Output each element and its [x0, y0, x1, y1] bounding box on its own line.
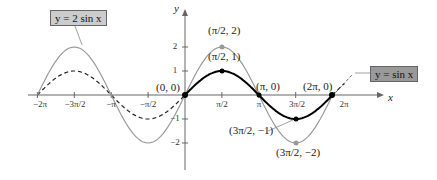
point-3pi-half-m1	[294, 117, 299, 122]
y-tick-label: 1	[170, 65, 180, 75]
label-origin: (0, 0)	[156, 81, 180, 93]
leader-2sin	[75, 26, 82, 45]
x-tick-label: −3π/2	[61, 99, 89, 109]
y-tick-label: 2	[170, 41, 180, 51]
x-axis-label: x	[388, 91, 393, 103]
y-tick-label: −2	[168, 137, 182, 147]
x-tick-label: π	[247, 99, 271, 109]
label-3pi-half-m2: (3π/2, −2)	[276, 146, 320, 158]
sine-chart: y x (0, 0) (π/2, 2) (π/2, 1) (π, 0) (2π,…	[0, 0, 437, 180]
x-tick-label: 2π	[334, 99, 354, 109]
y-axis-arrow-icon	[182, 9, 188, 16]
y-tick-label: −1	[168, 113, 182, 123]
x-axis-arrow-icon	[377, 92, 384, 98]
point-pi-half-2	[220, 45, 225, 50]
label-pi-0: (π, 0)	[256, 80, 280, 92]
y-axis-label: y	[174, 2, 179, 14]
point-3pi-half-m2	[294, 141, 299, 146]
x-tick-label: −2π	[28, 99, 52, 109]
label-pi-half-1: (π/2, 1)	[208, 50, 240, 62]
x-tick-label: −π/2	[134, 99, 162, 109]
label-2pi-0: (2π, 0)	[303, 80, 332, 92]
point-origin	[182, 92, 188, 98]
point-pi-0	[257, 93, 262, 98]
point-2pi-0	[329, 92, 335, 98]
x-tick-label: π/2	[210, 99, 234, 109]
point-pi-half-1	[220, 69, 225, 74]
label-3pi-half-m1: (3π/2, −1)	[229, 124, 273, 136]
legend-sin: y = sin x	[370, 66, 418, 82]
x-tick-label: 3π/2	[283, 99, 311, 109]
label-pi-half-2: (π/2, 2)	[208, 24, 240, 36]
x-tick-label: −π	[99, 99, 123, 109]
legend-2sin: y = 2 sin x	[50, 10, 107, 26]
